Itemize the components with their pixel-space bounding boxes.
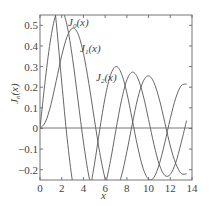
curves: [40, 0, 187, 206]
y-tick-label: 0.1: [24, 102, 38, 114]
series-label-1: J1(x): [80, 42, 101, 56]
series-label-2: J2(x): [96, 71, 117, 85]
y-tick-label: 0.4: [24, 40, 38, 52]
curve-j1x: [40, 8, 187, 199]
y-tick-label: −0.2: [18, 164, 38, 176]
x-tick-label: 10: [143, 182, 155, 194]
x-tick-label: 0: [37, 182, 43, 194]
x-tick-label: 12: [165, 182, 176, 194]
y-axis-label: Jn(x): [8, 83, 22, 104]
x-tick-label: 4: [81, 182, 87, 194]
y-tick-label: 0.5: [24, 19, 38, 31]
bessel-chart: 02468101214−0.2−0.100.10.20.30.40.5 J0(x…: [0, 0, 216, 206]
curve-j2x: [40, 28, 187, 193]
x-axis-label: x: [100, 189, 106, 201]
series-labels: J0(x)J1(x)J2(x): [68, 16, 117, 85]
x-tick-label: 14: [187, 182, 199, 194]
y-tick-label: −0.1: [18, 143, 38, 155]
y-tick-label: 0: [33, 122, 39, 134]
x-tick-label: 8: [124, 182, 130, 194]
y-tick-label: 0.2: [24, 81, 38, 93]
y-tick-label: 0.3: [24, 61, 38, 73]
series-label-0: J0(x): [68, 16, 89, 30]
ticks: 02468101214−0.2−0.100.10.20.30.40.5: [18, 15, 198, 194]
x-tick-label: 2: [59, 182, 65, 194]
